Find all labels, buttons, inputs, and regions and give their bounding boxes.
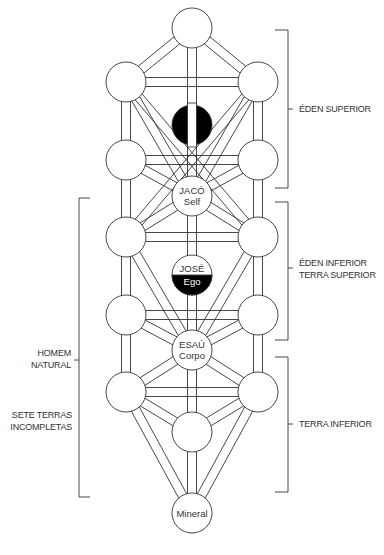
label-eden-inferior: ÉDEN INFERIOR <box>299 258 367 269</box>
label-natural: NATURAL <box>28 360 71 371</box>
node-label: Corpo <box>179 350 205 361</box>
node-label: ESAÚ <box>179 339 205 350</box>
node-label: Mineral <box>176 508 207 519</box>
node-label: Self <box>184 196 201 207</box>
node-l5 <box>106 372 146 412</box>
node-r4 <box>238 295 278 335</box>
label-eden-superior: ÉDEN SUPERIOR <box>299 104 371 115</box>
node-r5 <box>238 372 278 412</box>
node-ml <box>106 140 146 180</box>
node-mr <box>238 140 278 180</box>
node-l3 <box>106 217 146 257</box>
label-terra-superior: TERRA SUPERIOR <box>299 270 376 281</box>
label-sete-terras: SETE TERRAS <box>10 410 72 421</box>
node-top <box>172 8 212 48</box>
path-line <box>196 394 262 515</box>
bracket-terra-inferior <box>275 357 288 492</box>
bracket-homem-natural <box>79 198 90 497</box>
node-bm <box>172 412 212 452</box>
node-l4 <box>106 295 146 335</box>
label-terra-inferior: TERRA INFERIOR <box>299 419 372 430</box>
node-label: JACÓ <box>179 185 204 196</box>
path-line <box>122 394 188 515</box>
node-label-jose: JOSÉ <box>180 263 205 274</box>
node-ur <box>238 62 278 102</box>
label-homem: HOMEM <box>28 348 71 359</box>
node-r3 <box>238 217 278 257</box>
node-label-ego: Ego <box>184 276 201 287</box>
label-incompletas: INCOMPLETAS <box>6 422 72 433</box>
node-ul <box>106 62 146 102</box>
